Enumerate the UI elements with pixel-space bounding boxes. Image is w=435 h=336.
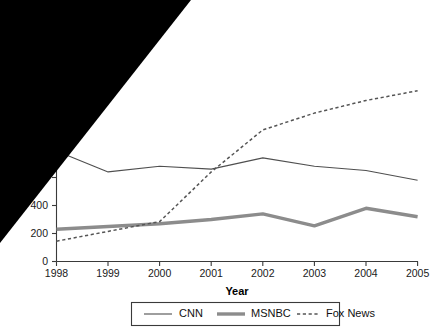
x-axis-title: Year [225,285,249,297]
x-tick-label-2005: 2005 [406,267,430,279]
y-tick-label-400: 400 [30,199,48,211]
series-line-msnbc [57,208,418,229]
x-tick-label-2001: 2001 [200,267,224,279]
x-tick-label-2002: 2002 [251,267,275,279]
series-line-fox-news [57,91,418,242]
x-tick-label-2003: 2003 [303,267,327,279]
line-chart-canvas: 0 200 400 0 1998 1999 2000 2001 2002 200… [0,0,435,336]
x-tick-label-2004: 2004 [354,267,378,279]
x-tick-label-2000: 2000 [148,267,172,279]
y-tick-label-600: 0 [42,171,48,183]
legend-label-fox-news: Fox News [326,307,375,319]
y-tick-group: 0 200 400 0 [30,171,56,267]
x-tick-label-1999: 1999 [96,267,120,279]
chart-legend: CNN MSNBC Fox News [132,303,376,326]
chart-figure: 0 200 400 0 1998 1999 2000 2001 2002 200… [0,0,435,336]
x-tick-label-1998: 1998 [45,267,69,279]
legend-label-cnn: CNN [179,307,203,319]
legend-label-msnbc: MSNBC [251,307,291,319]
y-tick-label-0: 0 [42,255,48,267]
series-line-cnn [57,151,418,180]
y-tick-label-200: 200 [30,227,48,239]
x-tick-group: 1998 1999 2000 2001 2002 2003 2004 2005 [45,262,430,280]
